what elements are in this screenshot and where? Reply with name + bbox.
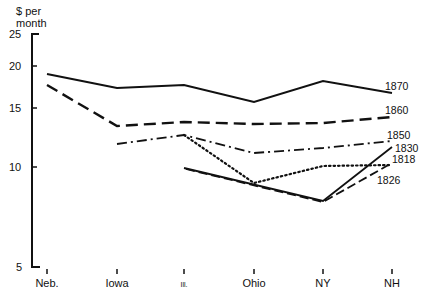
x-tick-ny: NY	[315, 277, 331, 289]
label-1826: 1826	[377, 174, 401, 186]
y-tick-20: 20	[9, 60, 21, 72]
line-chart: 25 20 15 10 5 Neb. Iowa Ill. Ohio NY NH …	[0, 0, 422, 295]
series-1826-line	[186, 163, 392, 202]
series-1860-line	[47, 85, 392, 126]
label-1818: 1818	[392, 153, 416, 165]
label-1860: 1860	[385, 104, 409, 116]
x-tick-ohio: Ohio	[242, 277, 265, 289]
series-1850-line	[117, 135, 392, 153]
y-tick-15: 15	[9, 102, 21, 114]
y-axis: 25 20 15 10 5	[9, 28, 40, 273]
x-tick-iowa: Iowa	[105, 277, 129, 289]
y-tick-10: 10	[9, 161, 21, 173]
x-tick-neb: Neb.	[35, 277, 58, 289]
y-tick-5: 5	[16, 261, 22, 273]
series-1870-line	[47, 74, 392, 102]
x-axis	[47, 269, 392, 274]
x-tick-nh: NH	[384, 277, 400, 289]
label-1870: 1870	[385, 80, 409, 92]
label-1850: 1850	[387, 129, 411, 141]
x-tick-ill: Ill.	[181, 281, 188, 288]
y-tick-25: 25	[9, 28, 21, 40]
